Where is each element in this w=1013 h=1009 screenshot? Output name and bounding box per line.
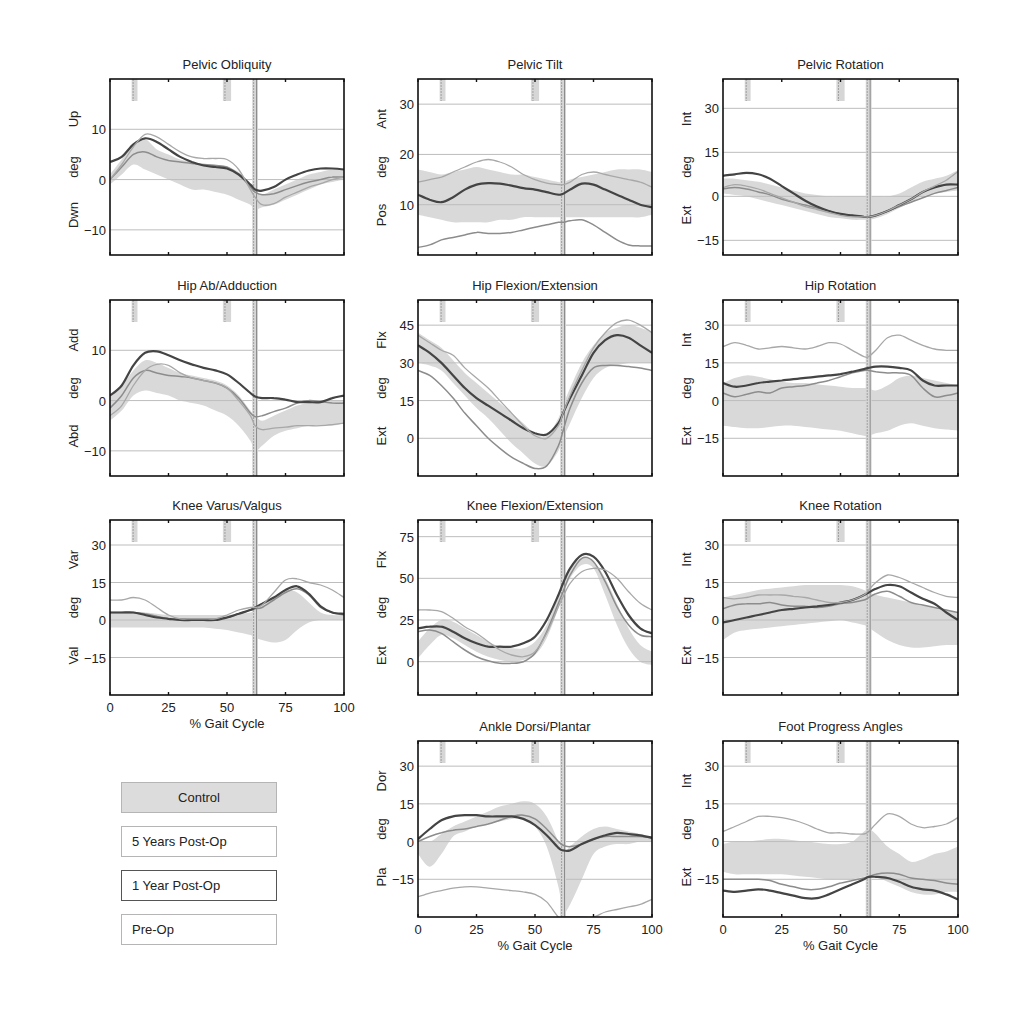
y-tick-label: −10 <box>84 223 106 238</box>
plot-area <box>418 79 652 255</box>
y-tick-label: 75 <box>400 530 414 545</box>
series-pre-op <box>723 335 958 357</box>
y-tick-label: 25 <box>400 613 414 628</box>
y-tick-label: 0 <box>712 394 719 409</box>
y-tick-label: 30 <box>705 318 719 333</box>
gait-event-marker <box>440 300 446 322</box>
legend-item-pre-op: Pre-Op <box>121 914 277 945</box>
control-band <box>723 585 958 648</box>
plot-area <box>723 741 958 917</box>
y-axis-label: deg <box>679 156 694 178</box>
y-tick-label: 0 <box>407 835 414 850</box>
y-axis-label: deg <box>66 597 81 619</box>
panel-hip-ab-adduction: Hip Ab/Adduction−10010AbddegAdd <box>66 278 344 476</box>
y-axis-label: deg <box>66 377 81 399</box>
panel-hip-flexion-extension: Hip Flexion/Extension0153045ExtdegFlx <box>374 278 652 476</box>
plot-area <box>110 79 344 255</box>
y-axis-label: Flx <box>374 550 389 568</box>
y-tick-label: 0 <box>99 173 106 188</box>
plot-area <box>110 520 344 695</box>
y-axis-label: Int <box>679 332 694 347</box>
y-axis-label: Ant <box>374 109 389 129</box>
gait-event-marker <box>745 79 751 101</box>
y-axis-label: Dor <box>374 770 389 792</box>
x-tick-label: 100 <box>333 700 355 715</box>
gait-event-marker <box>531 300 539 322</box>
plot-area <box>110 300 344 476</box>
x-tick-label: 0 <box>106 700 113 715</box>
y-tick-label: 0 <box>712 613 719 628</box>
y-tick-label: 45 <box>400 318 414 333</box>
control-band <box>418 325 652 467</box>
gait-event-marker <box>252 79 258 255</box>
x-axis-label: % Gait Cycle <box>189 716 264 731</box>
control-band <box>110 590 344 643</box>
gait-event-marker <box>836 79 844 101</box>
y-tick-label: 15 <box>705 145 719 160</box>
x-tick-label: 50 <box>528 922 542 937</box>
y-tick-label: 10 <box>400 198 414 213</box>
panel-pelvic-tilt: Pelvic Tilt102030PosdegAnt <box>374 57 652 255</box>
y-tick-label: −15 <box>697 431 719 446</box>
gait-event-marker <box>531 741 539 763</box>
gait-event-marker <box>866 300 872 476</box>
gait-event-marker <box>560 300 566 476</box>
y-axis-label: deg <box>374 818 389 840</box>
y-axis-label: Up <box>66 111 81 128</box>
panel-knee-varus-valgus: Knee Varus/Valgus−1501530ValdegVar025507… <box>66 498 355 731</box>
legend-item-1-year-post-op: 1 Year Post-Op <box>121 870 277 901</box>
y-axis-label: Ext <box>374 426 389 445</box>
gait-event-marker <box>866 520 872 695</box>
control-band <box>110 139 344 210</box>
panel-title: Knee Rotation <box>799 498 881 513</box>
y-tick-label: 30 <box>705 101 719 116</box>
y-axis-label: Flx <box>374 331 389 349</box>
panel-title: Pelvic Obliquity <box>183 57 272 72</box>
y-axis-label: Pla <box>374 867 389 887</box>
y-axis-label: Ext <box>679 426 694 445</box>
gait-event-marker <box>440 741 446 763</box>
y-axis-label: deg <box>679 377 694 399</box>
gait-event-marker <box>132 300 138 322</box>
y-tick-label: 30 <box>92 538 106 553</box>
y-axis-label: Ext <box>679 205 694 224</box>
panel-title: Knee Flexion/Extension <box>467 498 604 513</box>
x-tick-label: 100 <box>947 922 969 937</box>
series-pre-op <box>418 887 652 918</box>
y-tick-label: 30 <box>400 759 414 774</box>
control-band <box>418 558 652 665</box>
y-tick-label: 15 <box>705 576 719 591</box>
panel-title: Pelvic Rotation <box>797 57 884 72</box>
x-tick-label: 75 <box>278 700 292 715</box>
y-tick-label: 50 <box>400 571 414 586</box>
series-5-years-post-op <box>418 220 652 248</box>
y-tick-label: −15 <box>697 651 719 666</box>
x-tick-label: 25 <box>161 700 175 715</box>
plot-area <box>723 520 958 695</box>
legend-item-control: Control <box>121 782 277 813</box>
y-tick-label: −15 <box>697 872 719 887</box>
x-tick-label: 100 <box>641 922 663 937</box>
y-axis-label: Pos <box>374 203 389 226</box>
panel-knee-rotation: Knee Rotation−1501530ExtdegInt <box>679 498 958 695</box>
plot-area <box>723 300 958 476</box>
gait-event-marker <box>560 520 566 695</box>
plot-area <box>418 741 652 918</box>
x-tick-label: 50 <box>833 922 847 937</box>
y-tick-label: 30 <box>705 538 719 553</box>
panel-ankle-dorsi-plantar: Ankle Dorsi/Plantar−1501530PladegDor0255… <box>374 719 663 953</box>
y-tick-label: 0 <box>99 613 106 628</box>
panel-title: Hip Flexion/Extension <box>472 278 598 293</box>
gait-event-marker <box>132 79 138 101</box>
gait-event-marker <box>531 520 539 542</box>
y-axis-label: Dwn <box>66 202 81 228</box>
y-axis-label: Ext <box>679 646 694 665</box>
y-axis-label: Val <box>66 646 81 664</box>
y-tick-label: −15 <box>697 233 719 248</box>
gait-event-marker <box>836 520 844 542</box>
y-tick-label: 0 <box>712 189 719 204</box>
plot-frame <box>723 79 958 255</box>
gait-event-marker <box>132 520 138 542</box>
gait-event-marker <box>866 79 872 255</box>
y-axis-label: deg <box>679 818 694 840</box>
